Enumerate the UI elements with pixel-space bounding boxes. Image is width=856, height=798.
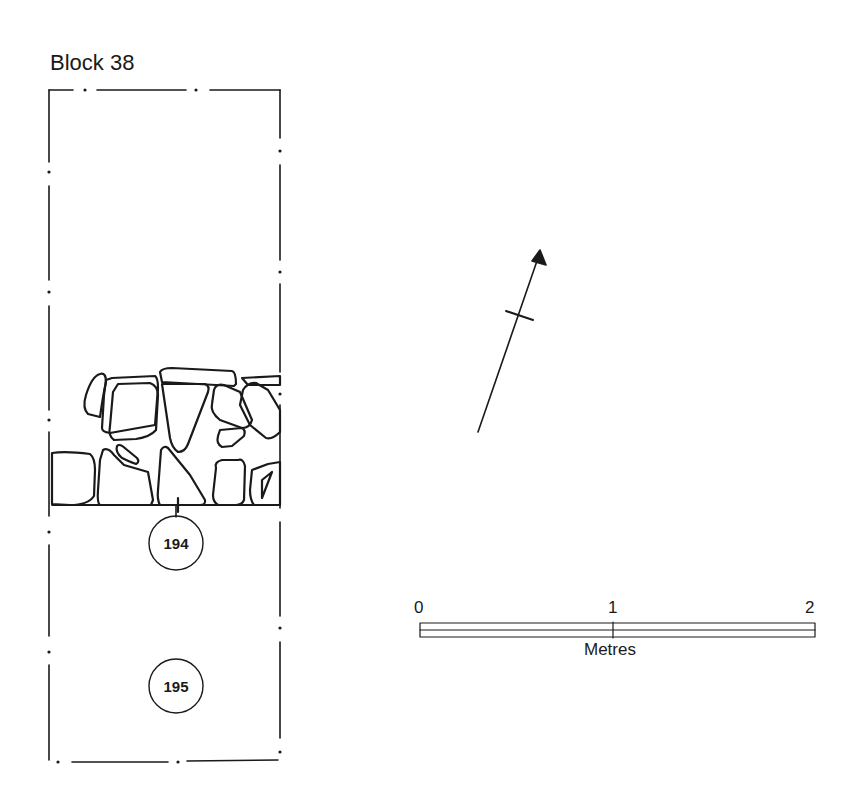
- scale-unit-label: Metres: [584, 640, 636, 660]
- stone-wall: [52, 368, 280, 512]
- context-label-194: 194: [163, 535, 189, 552]
- scale-bar: [420, 622, 815, 638]
- scale-tick-0: 0: [414, 598, 423, 618]
- scale-tick-2: 2: [805, 598, 814, 618]
- north-arrow-icon: [478, 250, 546, 432]
- site-plan: 194 195: [0, 0, 856, 798]
- context-label-195: 195: [163, 678, 188, 695]
- scale-tick-1: 1: [608, 598, 617, 618]
